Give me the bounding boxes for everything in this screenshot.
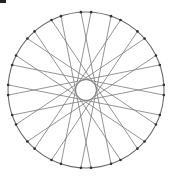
circle-point [15,54,18,57]
circle-point [33,147,36,150]
chord-line [52,31,138,160]
chord-circle-diagram [0,0,173,176]
circle-point [136,30,139,33]
circle-point [26,37,29,40]
circle-point [119,19,122,22]
chord-line [35,31,121,160]
chord-line [27,39,156,125]
circle-point [15,123,18,126]
circle-point [163,84,166,87]
circle-point [7,84,10,87]
circle-point [110,15,113,18]
chord-line [27,56,156,142]
circle-point [50,19,53,22]
circle-point [60,163,63,166]
circle-point [80,11,83,14]
circle-point [60,15,63,18]
circle-point [159,114,162,117]
chord-line [16,56,145,142]
circle-point [26,140,29,143]
circle-point [33,30,36,33]
circle-point [110,163,113,166]
circle-point [7,94,10,97]
circle-point [90,11,93,14]
circle-point [11,64,14,67]
circle-point [143,37,146,40]
circle-point [119,159,122,162]
circle-point [90,167,93,170]
circle-point [136,147,139,150]
chord-lines [8,12,164,168]
circle-point [143,140,146,143]
circle-point [11,114,14,117]
chord-line [52,20,138,149]
circle-point [80,167,83,170]
circle-point [50,159,53,162]
circle-point [163,94,166,97]
circle-point [159,64,162,67]
circle-point [155,123,158,126]
outer-circle [8,12,164,168]
chord-line [35,20,121,149]
chord-line [16,39,145,125]
circle-point [155,54,158,57]
